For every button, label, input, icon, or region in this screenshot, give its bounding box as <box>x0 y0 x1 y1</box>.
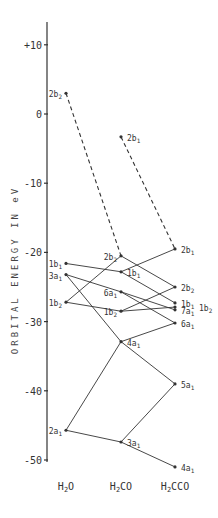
level-point-h2cco-7a1 <box>173 308 176 311</box>
level-point-h2o-2b2 <box>64 92 67 95</box>
level-point-h2o-1b2 <box>64 301 67 304</box>
level-label: 2b2 <box>181 284 195 294</box>
y-tick-label: -30 <box>24 317 42 328</box>
level-point-h2co-6a1 <box>119 290 122 293</box>
level-label: 4a1 <box>181 464 195 474</box>
y-tick-label: 0 <box>36 109 42 120</box>
level-point-h2cco-6a1 <box>173 321 176 324</box>
correlation-line <box>66 430 121 442</box>
correlation-line <box>121 384 175 442</box>
level-point-h2co-1b1 <box>119 270 122 273</box>
level-label: 1b1 <box>127 269 141 279</box>
correlation-line <box>121 342 175 384</box>
level-point-h2co-2b1 <box>119 135 122 138</box>
level-label: 6a1 <box>181 320 195 330</box>
level-point-h2co-4a1 <box>119 340 122 343</box>
level-label: 2b1 <box>181 246 195 256</box>
y-tick-label: -50 <box>24 455 42 466</box>
correlation-line <box>66 342 121 431</box>
level-label: 4a1 <box>127 339 141 349</box>
level-point-h2o-3a1 <box>64 273 67 276</box>
level-point-h2cco-5a1 <box>173 382 176 385</box>
orbital-correlation-diagram: +100-10-20-30-40-50 2b21b13a11b22a12b12b… <box>0 0 218 518</box>
level-label: 3a1 <box>49 272 63 282</box>
level-label: 1b2 <box>199 304 213 314</box>
level-label: 2b2 <box>49 90 63 100</box>
level-point-h2co-2b2 <box>119 254 122 257</box>
level-point-h2cco-2b2 <box>173 285 176 288</box>
level-label: 1b2 <box>49 299 63 309</box>
level-label: 3a1 <box>127 439 141 449</box>
level-point-h2o-2a1 <box>64 429 67 432</box>
level-label: 1b1 <box>49 260 63 270</box>
molecule-labels: H2OH2COH2CCO <box>58 481 189 494</box>
y-tick-label: -20 <box>24 247 42 258</box>
level-point-h2co-3a1 <box>119 440 122 443</box>
level-point-h2cco-2b1 <box>173 247 176 250</box>
molecule-label-h2o: H2O <box>58 481 74 494</box>
level-point-h2cco-1b2 <box>173 305 176 308</box>
level-point-h2cco-4a1 <box>173 465 176 468</box>
y-axis: +100-10-20-30-40-50 <box>24 22 48 466</box>
correlation-line <box>66 93 121 256</box>
level-point-h2o-1b1 <box>64 262 67 265</box>
level-label: 1b2 <box>104 308 118 318</box>
energy-levels: 2b21b13a11b22a12b12b21b16a11b24a13a12b12… <box>49 90 213 474</box>
correlation-line <box>66 263 121 271</box>
molecule-label-h2co: H2CO <box>110 481 132 494</box>
y-tick-label: -10 <box>24 178 42 189</box>
level-point-h2co-1b2 <box>119 310 122 313</box>
y-tick-label: +10 <box>24 40 42 51</box>
level-label: 2a1 <box>49 427 63 437</box>
level-label: 2b1 <box>127 134 141 144</box>
level-point-h2cco-1b1 <box>173 301 176 304</box>
correlation-line <box>121 137 175 249</box>
correlation-lines <box>66 93 175 467</box>
molecule-label-h2cco: H2CCO <box>161 481 189 494</box>
y-tick-label: -40 <box>24 386 42 397</box>
level-label: 5a1 <box>181 381 195 391</box>
level-label: 2b2 <box>104 253 118 263</box>
